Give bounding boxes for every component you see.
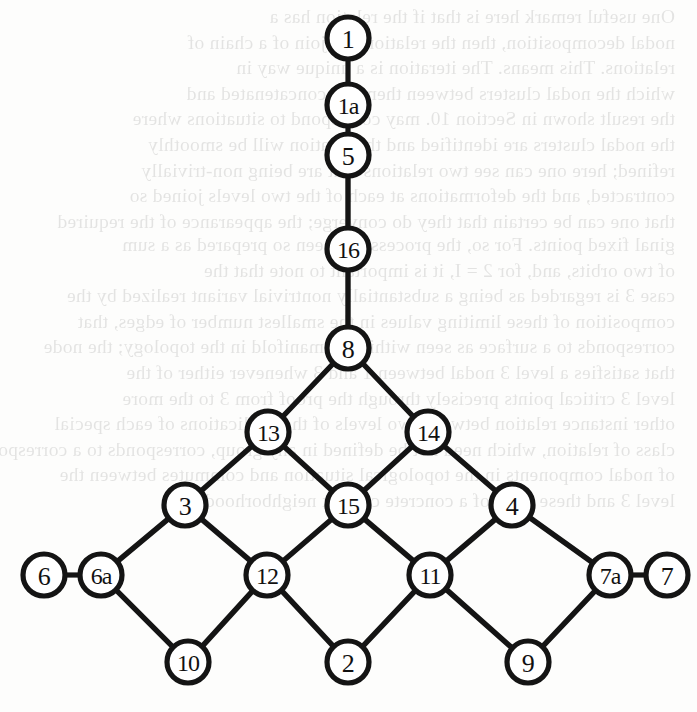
graph-edge — [280, 589, 335, 648]
graph-node-14[interactable]: 14 — [407, 411, 449, 453]
graph-node-11[interactable]: 11 — [409, 554, 451, 596]
graph-node-2[interactable]: 2 — [327, 641, 369, 683]
graph-node-5[interactable]: 5 — [327, 134, 369, 176]
graph-edge — [361, 589, 417, 648]
node-label: 9 — [522, 649, 535, 678]
graph-node-9[interactable]: 9 — [507, 641, 549, 683]
graph-node-10[interactable]: 10 — [167, 641, 209, 683]
graph-edge — [527, 516, 594, 564]
graph-edge — [199, 445, 253, 493]
graph-edge — [114, 588, 174, 648]
graph-node-12[interactable]: 12 — [246, 554, 288, 596]
node-label: 15 — [337, 493, 360, 519]
graph-nodes: 11a51681314315466a12117a71029 — [23, 17, 688, 683]
graph-node-1[interactable]: 1 — [327, 17, 369, 59]
node-label: 6 — [38, 562, 51, 591]
graph-node-7[interactable]: 7 — [646, 554, 688, 596]
graph-edge — [442, 444, 497, 492]
graph-node-13[interactable]: 13 — [247, 411, 289, 453]
scanned-page: One useful remark here is that if the re… — [0, 0, 697, 712]
graph-edge — [444, 588, 514, 650]
node-label: 8 — [342, 335, 355, 364]
graph-node-16[interactable]: 16 — [327, 228, 369, 270]
graph-node-8[interactable]: 8 — [327, 327, 369, 369]
node-label: 13 — [257, 420, 280, 446]
graph-node-7a[interactable]: 7a — [589, 554, 631, 596]
node-label: 3 — [179, 492, 192, 521]
graph-node-15[interactable]: 15 — [327, 484, 369, 526]
node-label: 7 — [661, 562, 674, 591]
node-label: 5 — [342, 142, 355, 171]
graph-edge — [541, 589, 597, 648]
graph-edge — [281, 362, 335, 418]
graph-edge — [362, 517, 415, 562]
graph-edge — [444, 517, 497, 562]
node-label: 16 — [337, 237, 360, 263]
graph-edge — [199, 517, 252, 562]
node-label: 10 — [177, 650, 200, 676]
graph-node-6[interactable]: 6 — [23, 554, 65, 596]
graph-edge — [281, 517, 333, 562]
graph-edge — [201, 589, 254, 648]
node-label: 4 — [506, 492, 519, 521]
graph-edge — [362, 445, 414, 492]
graph-node-4[interactable]: 4 — [491, 484, 533, 526]
node-label: 1a — [338, 93, 360, 119]
node-label: 11 — [420, 563, 441, 589]
graph-node-1a[interactable]: 1a — [327, 84, 369, 126]
graph-edge — [282, 445, 334, 492]
node-label: 2 — [342, 649, 355, 678]
node-link-graph-diagram: 11a51681314315466a12117a71029 — [0, 0, 697, 712]
node-label: 1 — [342, 25, 355, 54]
graph-node-3[interactable]: 3 — [164, 484, 206, 526]
graph-node-6a[interactable]: 6a — [80, 554, 122, 596]
node-label: 12 — [256, 563, 278, 589]
graph-edge — [361, 362, 415, 418]
graph-edge — [116, 517, 171, 563]
node-label: 6a — [91, 563, 113, 589]
node-label: 7a — [600, 563, 622, 589]
node-label: 14 — [417, 420, 440, 446]
